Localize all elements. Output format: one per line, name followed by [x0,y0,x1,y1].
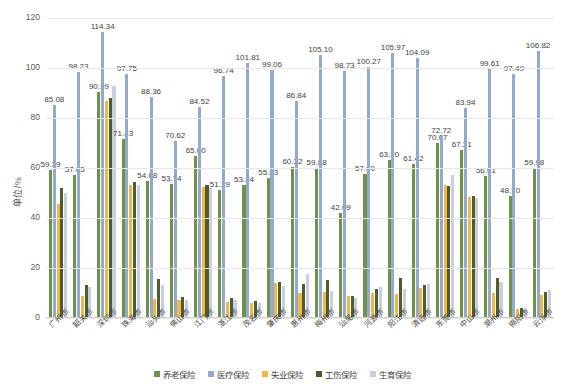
bar [105,101,108,318]
bar: 48.70 [509,196,512,318]
gridline [46,168,554,169]
bar: 88.36 [150,97,153,318]
bar: 70.07 [436,143,439,318]
x-axis-tick-label: 中山市 [457,320,481,360]
bar-value-label: 114.34 [91,23,115,31]
x-axis-tick-label: 深圳市 [94,320,118,360]
bar: 86.84 [295,101,298,318]
bar: 97.75 [125,74,128,318]
bar [57,204,60,319]
x-axis-tick-label: 惠州市 [288,320,312,360]
bar: 59.88 [315,168,318,318]
chart-legend: 养老保险医疗保险失业保险工伤保险生育保险 [0,368,565,380]
bar [444,185,447,318]
bar [64,193,67,319]
bar-value-label: 104.09 [405,49,429,57]
bar [468,197,471,319]
bar-value-label: 106.82 [526,42,550,50]
bar-value-label: 42.09 [331,204,351,212]
legend-item[interactable]: 养老保险 [154,368,195,380]
bar-value-label: 105.97 [381,44,405,52]
bar: 105.97 [391,53,394,318]
bar: 57.05 [73,175,76,318]
y-axis-tick-label: 40 [0,212,40,222]
gridline [46,18,554,19]
bar: 98.23 [77,72,80,318]
bar-value-label: 101.81 [236,54,260,62]
bar: 61.42 [412,164,415,318]
bar: 84.52 [198,107,201,318]
bar-value-label: 105.10 [308,46,332,54]
bar: 97.49 [512,74,515,318]
legend-label: 工伤保险 [325,368,357,380]
bar: 59.39 [49,170,52,318]
bar [129,185,132,319]
plot-area: 59.3985.0857.0598.2390.39114.3471.4397.7… [46,18,554,318]
x-axis-tick-label: 汕头市 [143,320,167,360]
bar: 104.09 [416,58,419,318]
y-axis-tick-label: 120 [0,12,40,22]
bar: 100.27 [367,67,370,318]
bar: 98.73 [343,71,346,318]
legend-item[interactable]: 生育保险 [370,368,411,380]
x-axis-tick-label: 潮州市 [481,320,505,360]
x-axis-tick-label: 云浮市 [530,320,554,360]
bar: 59.98 [533,168,536,318]
bar: 54.68 [146,181,149,318]
bar: 72.72 [440,136,443,318]
bar [109,98,112,318]
bar [137,185,140,318]
gridline [46,68,554,69]
y-axis-tick-label: 100 [0,62,40,72]
legend-label: 养老保险 [163,368,195,380]
bar: 55.83 [267,178,270,318]
bar-value-label: 53.74 [161,175,181,183]
gridline [46,218,554,219]
x-axis-tick-label: 珠海市 [119,320,143,360]
x-axis-tick-label: 广州市 [46,320,70,360]
bar [475,198,478,319]
x-axis-tick-label: 肇庆市 [264,320,288,360]
bar [472,196,475,319]
x-axis-tick-label: 河源市 [360,320,384,360]
x-axis-tick-label: 江门市 [191,320,215,360]
legend-item[interactable]: 工伤保险 [316,368,357,380]
y-axis-tick-label: 80 [0,112,40,122]
bar-value-label: 65.00 [186,147,206,155]
y-axis-title: 单位/% [11,177,24,208]
x-axis-tick-label: 清远市 [409,320,433,360]
bar [202,187,205,319]
bar: 63.20 [388,160,391,318]
legend-label: 医疗保险 [217,368,249,380]
gridline [46,268,554,269]
bar [451,175,454,318]
legend-swatch-icon [370,371,376,377]
bar-value-label: 86.84 [286,92,306,100]
bar [447,186,450,318]
bar-value-label: 51.39 [210,181,230,189]
bar-value-label: 97.49 [504,65,524,73]
bar: 105.10 [319,55,322,318]
bar-value-label: 55.83 [258,169,278,177]
bar: 57.60 [363,174,366,318]
bar-value-label: 71.43 [113,130,133,138]
x-axis-tick-label: 揭阳市 [506,320,530,360]
bar: 51.39 [218,190,221,318]
bar [205,185,208,318]
bar [60,188,63,318]
y-axis-tick-label: 60 [0,162,40,172]
x-axis-tick-label: 韶关市 [70,320,94,360]
bar-value-label: 85.08 [44,96,64,104]
bar-value-label: 100.27 [357,58,381,66]
bar: 56.61 [484,176,487,318]
legend-item[interactable]: 医疗保险 [208,368,249,380]
x-axis-tick-label: 梅州市 [312,320,336,360]
legend-swatch-icon [262,371,268,377]
legend-item[interactable]: 失业保险 [262,368,303,380]
bar: 67.31 [460,150,463,318]
bar-value-label: 53.24 [234,176,254,184]
bar: 85.08 [53,105,56,318]
bar-value-label: 63.20 [379,151,399,159]
bar [133,182,136,318]
legend-swatch-icon [154,371,160,377]
